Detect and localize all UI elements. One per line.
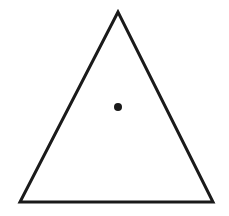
triangle-diagram	[0, 0, 229, 216]
center-point	[114, 103, 122, 111]
diagram-canvas	[0, 0, 229, 216]
